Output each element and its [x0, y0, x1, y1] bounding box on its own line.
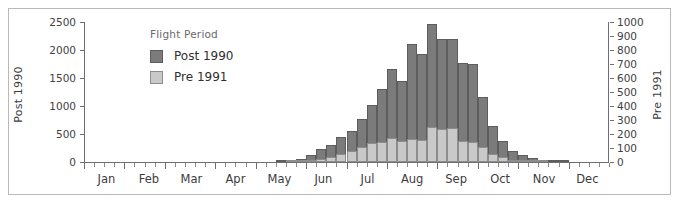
bar-segment-pre-1991 [306, 160, 316, 162]
x-tick-week [336, 163, 337, 167]
bar-week-34 [417, 54, 427, 162]
legend-label-post-1990: Post 1990 [174, 49, 233, 63]
x-tick-month [84, 163, 85, 169]
x-tick-week [145, 163, 146, 167]
bar-segment-pre-1991 [296, 160, 306, 162]
y-tick-right [610, 36, 614, 37]
bar-week-47 [548, 161, 558, 162]
x-axis-label-nov: Nov [520, 172, 568, 186]
x-tick-month [256, 163, 257, 169]
bar-week-43 [508, 151, 518, 162]
x-tick-week [316, 163, 317, 167]
y-tick-right [610, 148, 614, 149]
bar-week-35 [427, 24, 437, 162]
bar-segment-pre-1991 [437, 129, 447, 162]
y-tick-right [610, 106, 614, 107]
x-tick-week [579, 163, 580, 167]
y-tick-label-right: 300 [617, 115, 637, 125]
bar-week-48 [559, 161, 569, 162]
x-tick-week [427, 163, 428, 167]
bar-week-38 [458, 63, 468, 162]
bar-segment-pre-1991 [508, 160, 518, 162]
y-tick-right [610, 120, 614, 121]
x-tick-week [397, 163, 398, 167]
y-tick-right [610, 22, 614, 23]
y-tick-label-right: 200 [617, 129, 637, 139]
y-tick-label-left: 2500 [0, 17, 76, 27]
bar-week-31 [387, 69, 397, 162]
x-tick-week [377, 163, 378, 167]
x-axis-label-aug: Aug [388, 172, 436, 186]
x-tick-week [538, 163, 539, 167]
x-tick-week [458, 163, 459, 167]
x-tick-week [498, 163, 499, 167]
bar-segment-pre-1991 [478, 147, 488, 162]
x-axis-label-dec: Dec [563, 172, 611, 186]
y-tick-right [610, 64, 614, 65]
y-tick-label-right: 400 [617, 101, 637, 111]
bar-segment-pre-1991 [427, 127, 437, 162]
bar-week-39 [468, 64, 478, 162]
y-axis-left-title: Post 1990 [12, 55, 25, 135]
bar-week-41 [488, 126, 498, 162]
y-tick-right [610, 78, 614, 79]
x-tick-week [195, 163, 196, 167]
legend-item-pre-1991: Pre 1991 [150, 70, 233, 84]
x-axis-label-apr: Apr [211, 172, 259, 186]
x-tick-week [417, 163, 418, 167]
bar-segment-pre-1991 [417, 140, 427, 162]
x-axis-label-oct: Oct [476, 172, 524, 186]
x-tick-month [387, 163, 388, 169]
x-tick-week [589, 163, 590, 167]
x-tick-month [347, 163, 348, 169]
bar-segment-pre-1991 [336, 154, 346, 162]
bar-segment-post-1990 [559, 160, 569, 162]
x-tick-week [94, 163, 95, 167]
bar-week-36 [437, 39, 447, 162]
x-tick-week [286, 163, 287, 167]
x-tick-week [134, 163, 135, 167]
x-tick-week [114, 163, 115, 167]
bar-segment-pre-1991 [528, 160, 538, 162]
x-tick-week [528, 163, 529, 167]
bar-segment-post-1990 [276, 160, 286, 162]
bar-segment-pre-1991 [326, 157, 336, 162]
y-tick-label-right: 100 [617, 143, 637, 153]
y-tick-label-right: 900 [617, 31, 637, 41]
bar-week-46 [538, 160, 548, 162]
x-tick-week [276, 163, 277, 167]
x-tick-week [246, 163, 247, 167]
x-tick-week [367, 163, 368, 167]
x-tick-week [468, 163, 469, 167]
x-tick-week [235, 163, 236, 167]
bar-week-44 [518, 155, 528, 162]
chart-container: Post 1990 Pre 1991 05001000150020002500 … [0, 0, 683, 205]
y-tick-label-left: 2000 [0, 45, 76, 55]
legend-swatch-post-1990 [150, 50, 163, 63]
x-tick-week [559, 163, 560, 167]
x-tick-week [266, 163, 267, 167]
bar-week-20 [276, 161, 286, 162]
bar-segment-pre-1991 [357, 147, 367, 162]
bar-week-22 [296, 159, 306, 162]
bar-segment-pre-1991 [518, 160, 528, 162]
x-tick-week [296, 163, 297, 167]
x-tick-week [609, 163, 610, 167]
x-tick-month [124, 163, 125, 169]
x-tick-week [225, 163, 226, 167]
bar-segment-pre-1991 [498, 157, 508, 162]
legend-swatch-pre-1991 [150, 71, 163, 84]
bar-segment-pre-1991 [367, 143, 377, 162]
x-tick-month [306, 163, 307, 169]
y-tick-label-right: 0 [617, 157, 624, 167]
y-axis-right-title: Pre 1991 [651, 55, 664, 135]
y-tick-label-right: 600 [617, 73, 637, 83]
bar-week-29 [367, 105, 377, 162]
bar-segment-pre-1991 [488, 154, 498, 162]
bar-week-40 [478, 97, 488, 162]
x-tick-month [215, 163, 216, 169]
bar-week-23 [306, 155, 316, 162]
x-tick-week [104, 163, 105, 167]
bar-segment-pre-1991 [447, 128, 457, 162]
x-tick-week [357, 163, 358, 167]
